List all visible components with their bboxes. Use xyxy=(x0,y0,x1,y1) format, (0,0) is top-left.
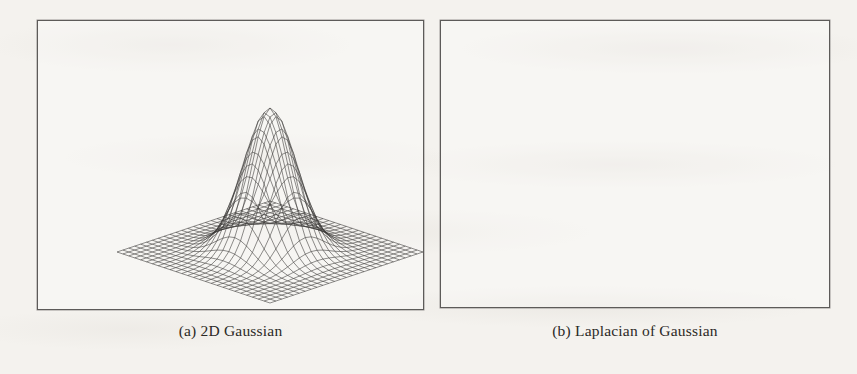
figure-panel-gaussian xyxy=(37,20,424,310)
gaussian-surface-plot xyxy=(37,20,424,310)
caption-gaussian: (a) 2D Gaussian xyxy=(37,322,424,340)
figure-panel-log xyxy=(440,20,830,308)
log-surface-plot xyxy=(440,20,830,308)
caption-log: (b) Laplacian of Gaussian xyxy=(440,322,830,340)
figure-container: (a) 2D Gaussian (b) Laplacian of Gaussia… xyxy=(0,0,857,374)
